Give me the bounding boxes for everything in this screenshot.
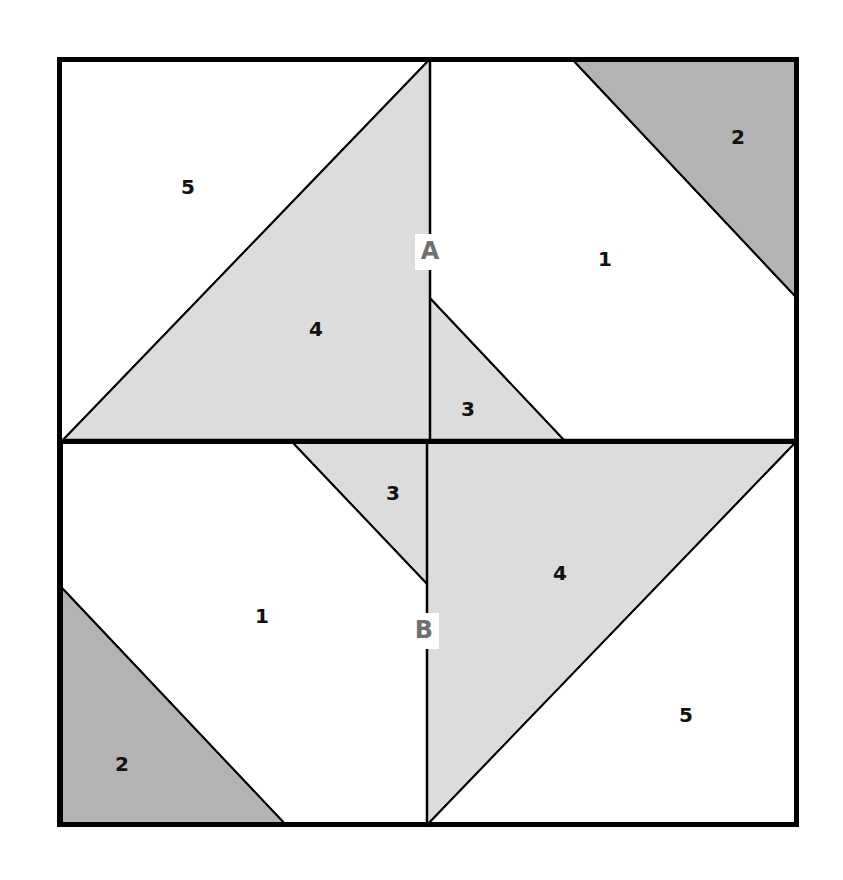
piece-label-top-2: 2: [731, 125, 745, 149]
quilt-block-diagram: 5431231245 AB: [0, 0, 843, 880]
piece-label-top-5: 5: [181, 175, 195, 199]
seam-label-A: A: [421, 237, 440, 265]
piece-label-bottom-1: 1: [255, 604, 269, 628]
piece-label-top-1: 1: [598, 247, 612, 271]
seam-label-B: B: [415, 616, 433, 644]
piece-label-bottom-2: 2: [115, 752, 129, 776]
piece-label-top-3: 3: [461, 397, 475, 421]
piece-label-top-4: 4: [309, 317, 323, 341]
piece-label-bottom-4: 4: [553, 561, 567, 585]
piece-label-bottom-3: 3: [386, 481, 400, 505]
piece-label-bottom-5: 5: [679, 703, 693, 727]
